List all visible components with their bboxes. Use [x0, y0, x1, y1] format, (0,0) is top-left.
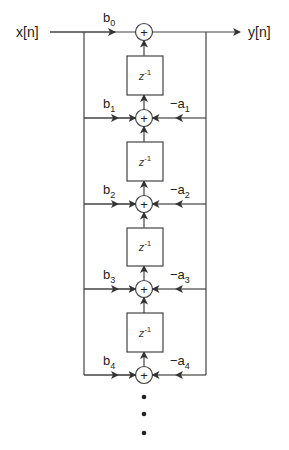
delay-label: z-1	[127, 325, 163, 339]
delay-label: z-1	[127, 154, 163, 168]
plus-icon: +	[140, 111, 148, 126]
plus-icon: +	[140, 368, 148, 383]
delay-label: z-1	[127, 68, 163, 82]
coef-a3: −a3	[170, 267, 190, 285]
plus-icon: +	[140, 282, 148, 297]
coef-a2: −a2	[170, 182, 190, 200]
output-label: y[n]	[248, 24, 271, 40]
coef-a4: −a4	[170, 353, 190, 371]
delay-label: z-1	[127, 239, 163, 253]
input-label: x[n]	[16, 24, 39, 40]
coef-b0: b0	[103, 10, 115, 28]
coef-b3: b3	[103, 267, 115, 285]
plus-icon: +	[140, 197, 148, 212]
coef-a1: −a1	[170, 96, 190, 114]
plus-icon: +	[140, 25, 148, 40]
coef-b2: b2	[103, 182, 115, 200]
coef-b1: b1	[103, 96, 115, 114]
coef-b4: b4	[103, 353, 115, 371]
